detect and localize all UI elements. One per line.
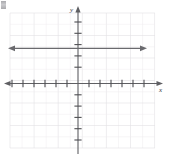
y-axis <box>74 6 81 154</box>
coordinate-plane-figure: y x <box>0 0 169 159</box>
graph-canvas: y x <box>0 0 169 159</box>
x-axis-label: x <box>158 86 163 94</box>
x-axis <box>4 80 163 87</box>
y-axis-label: y <box>69 6 74 14</box>
